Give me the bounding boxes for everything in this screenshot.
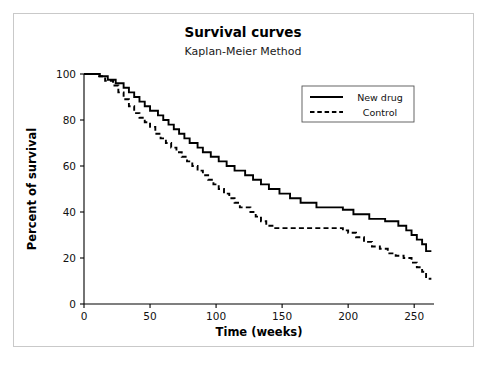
x-tick-label: 100 [206,310,226,322]
x-tick-label: 150 [272,310,292,322]
y-tick-label: 0 [69,298,76,310]
chart-subtitle: Kaplan-Meier Method [185,45,302,58]
chart-legend: New drug Control [302,86,414,122]
x-tick-label: 250 [404,310,424,322]
y-tick-label: 20 [63,252,76,264]
x-tick-label: 0 [81,310,88,322]
x-tick-label: 50 [143,310,156,322]
y-tick-label: 80 [63,114,76,126]
x-tick-label: 200 [338,310,358,322]
y-tick-label: 40 [63,206,76,218]
figure-frame: Survival curves Kaplan-Meier Method 0204… [13,13,474,347]
x-axis-title: Time (weeks) [216,325,303,339]
y-axis-title: Percent of survival [25,128,39,250]
y-tick-label: 100 [56,68,76,80]
y-tick-label: 60 [63,160,76,172]
legend-label-control: Control [363,107,397,118]
legend-label-new-drug: New drug [357,92,403,103]
y-axis-ticks: 020406080100 [56,68,84,310]
chart-title: Survival curves [185,24,302,40]
x-axis-ticks: 050100150200250 [81,304,425,322]
survival-curves-chart: Survival curves Kaplan-Meier Method 0204… [14,14,473,346]
